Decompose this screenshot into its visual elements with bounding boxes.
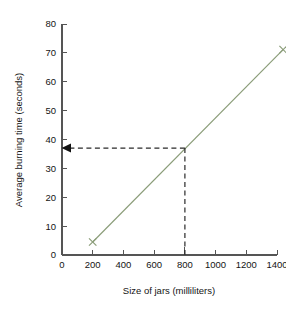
x-axis-title: Size of jars (milliliters): [123, 285, 215, 296]
y-tick-label: 0: [51, 249, 56, 260]
y-tick-label: 30: [45, 163, 56, 174]
x-axis-tick-labels: 0 200 400 600 800 1000 1200 1400: [59, 259, 286, 270]
y-tick-label: 40: [45, 134, 56, 145]
y-axis-title: Average burning time (seconds): [13, 73, 24, 207]
guide-arrowhead-icon: [62, 144, 72, 153]
data-point-marker: [279, 46, 286, 53]
x-tick-label: 0: [59, 259, 64, 270]
x-tick-label: 800: [177, 259, 193, 270]
y-tick-label: 50: [45, 105, 56, 116]
scatter-line-plot: 0 10 20 30 40 50 60 70 80 0 200 400 600: [0, 0, 286, 310]
x-tick-label: 200: [85, 259, 101, 270]
x-tick-label: 1000: [205, 259, 226, 270]
y-tick-label: 80: [45, 18, 56, 29]
y-tick-label: 60: [45, 76, 56, 87]
y-tick-label: 20: [45, 192, 56, 203]
x-tick-label: 400: [115, 259, 131, 270]
y-tick-label: 70: [45, 47, 56, 58]
x-tick-label: 600: [146, 259, 162, 270]
y-tick-label: 10: [45, 221, 56, 232]
line-of-best-fit: [93, 50, 283, 242]
x-tick-label: 1200: [236, 259, 257, 270]
y-axis-ticks: [62, 24, 67, 255]
data-point-marker: [89, 238, 96, 245]
x-tick-label: 1400: [266, 259, 286, 270]
chart-container: 0 10 20 30 40 50 60 70 80 0 200 400 600: [0, 0, 286, 310]
x-axis-ticks: [62, 247, 277, 255]
y-axis-tick-labels: 0 10 20 30 40 50 60 70 80: [45, 18, 56, 260]
